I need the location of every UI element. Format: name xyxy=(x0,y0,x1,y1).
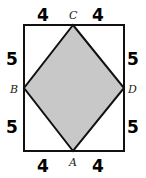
measure-right-upper: 5 xyxy=(127,49,139,69)
measure-bottom-left: 4 xyxy=(37,156,49,176)
measure-left-lower: 5 xyxy=(6,117,18,137)
rhombus-diagram: C B D A 4 4 4 4 5 5 5 5 xyxy=(0,0,146,178)
measure-left-upper: 5 xyxy=(6,49,18,69)
measure-top-right: 4 xyxy=(92,5,104,25)
point-label-c: C xyxy=(69,9,78,22)
point-label-b: B xyxy=(9,83,18,96)
measure-bottom-right: 4 xyxy=(92,156,104,176)
point-label-a: A xyxy=(68,156,77,169)
measure-top-left: 4 xyxy=(37,5,49,25)
point-label-d: D xyxy=(127,83,137,96)
measure-right-lower: 5 xyxy=(127,117,139,137)
